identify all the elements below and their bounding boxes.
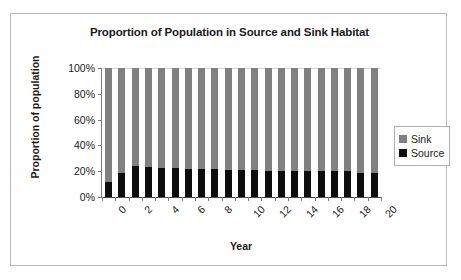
x-tick-mark [248,197,249,201]
bar-column[interactable] [357,68,364,197]
bar-segment-source[interactable] [304,171,311,197]
bar-segment-sink[interactable] [145,68,152,167]
bar-column[interactable] [265,68,272,197]
bar-column[interactable] [118,68,125,197]
chart-title: Proportion of Population in Source and S… [11,26,448,38]
x-tick-mark [288,197,289,201]
bar-segment-sink[interactable] [265,68,272,171]
bar-column[interactable] [371,68,378,197]
legend-swatch-icon [399,149,407,157]
bar-segment-source[interactable] [318,171,325,197]
x-tick-mark [142,197,143,201]
x-tick-mark [208,197,209,201]
bar-segment-sink[interactable] [318,68,325,171]
bar-column[interactable] [291,68,298,197]
bar-segment-source[interactable] [118,173,125,198]
x-tick-label: 18 [356,203,373,220]
bar-segment-sink[interactable] [185,68,192,169]
x-tick-label: 12 [276,203,293,220]
x-tick-mark [328,197,329,201]
bar-segment-source[interactable] [225,170,232,197]
legend-item[interactable]: Sink [399,133,444,145]
x-tick-label: 14 [303,203,320,220]
x-tick-mark [301,197,302,201]
bar-segment-source[interactable] [357,173,364,198]
bar-segment-sink[interactable] [225,68,232,170]
x-tick-label: 6 [195,203,208,216]
x-tick-mark [315,197,316,201]
bar-segment-sink[interactable] [158,68,165,168]
bar-segment-sink[interactable] [105,68,112,182]
bar-segment-source[interactable] [238,170,245,197]
bar-column[interactable] [278,68,285,197]
bar-segment-source[interactable] [132,166,139,197]
bar-segment-sink[interactable] [371,68,378,172]
bar-column[interactable] [331,68,338,197]
bar-segment-source[interactable] [265,171,272,197]
x-tick-mark [368,197,369,201]
bar-series-group [102,68,381,197]
bar-segment-sink[interactable] [304,68,311,171]
bar-segment-source[interactable] [185,169,192,197]
x-tick-label: 16 [330,203,347,220]
bar-segment-source[interactable] [211,169,218,197]
bar-segment-source[interactable] [371,173,378,198]
bar-segment-source[interactable] [251,170,258,197]
y-tick-label: 0% [80,191,95,203]
bar-segment-source[interactable] [331,171,338,197]
bar-segment-source[interactable] [278,171,285,197]
bar-column[interactable] [211,68,218,197]
bar-segment-sink[interactable] [278,68,285,171]
x-tick-label: 20 [383,203,400,220]
bar-column[interactable] [198,68,205,197]
bar-segment-source[interactable] [172,168,179,197]
bar-segment-source[interactable] [105,182,112,197]
x-tick-mark [235,197,236,201]
x-tick-label: 4 [168,203,181,216]
bar-segment-sink[interactable] [344,68,351,171]
legend-item[interactable]: Source [399,147,444,159]
bar-segment-sink[interactable] [198,68,205,169]
bar-segment-source[interactable] [344,171,351,197]
x-tick-mark [168,197,169,201]
x-tick-label: 10 [250,203,267,220]
bar-segment-sink[interactable] [331,68,338,171]
x-tick-label: 2 [142,203,155,216]
chart-legend: SinkSource [394,126,450,166]
bar-segment-sink[interactable] [251,68,258,170]
bar-column[interactable] [185,68,192,197]
x-tick-mark [195,197,196,201]
bar-column[interactable] [158,68,165,197]
bar-segment-sink[interactable] [291,68,298,171]
bar-segment-sink[interactable] [172,68,179,168]
bar-segment-sink[interactable] [211,68,218,169]
x-tick-mark [275,197,276,201]
y-tick-label: 100% [68,62,95,74]
bar-column[interactable] [238,68,245,197]
bar-segment-source[interactable] [145,167,152,197]
bar-segment-sink[interactable] [357,68,364,172]
bar-segment-sink[interactable] [132,68,139,166]
bar-column[interactable] [318,68,325,197]
y-tick-label: 80% [74,88,95,100]
bar-column[interactable] [132,68,139,197]
bar-segment-source[interactable] [158,168,165,197]
bar-column[interactable] [145,68,152,197]
x-tick-mark [381,197,382,201]
bar-segment-sink[interactable] [238,68,245,170]
bar-column[interactable] [105,68,112,197]
x-tick-mark [129,197,130,201]
bar-column[interactable] [172,68,179,197]
y-tick-label: 40% [74,139,95,151]
bar-segment-sink[interactable] [118,68,125,172]
bar-segment-source[interactable] [291,171,298,197]
y-tick-label: 20% [74,165,95,177]
x-tick-mark [341,197,342,201]
bar-column[interactable] [251,68,258,197]
bar-segment-source[interactable] [198,169,205,197]
legend-item-label: Sink [411,133,431,145]
bar-column[interactable] [344,68,351,197]
bar-column[interactable] [304,68,311,197]
legend-swatch-icon [399,135,407,143]
bar-column[interactable] [225,68,232,197]
